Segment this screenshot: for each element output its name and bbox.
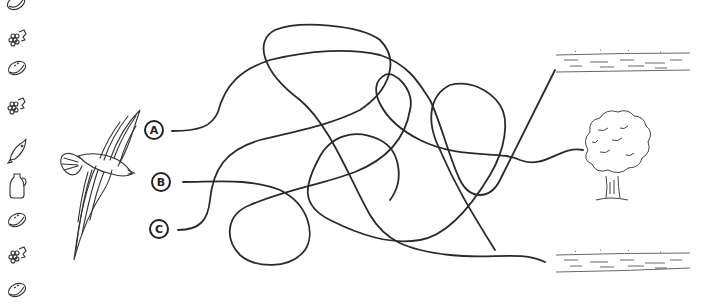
water-bottom-icon: [0, 0, 710, 305]
maze-puzzle: A B C: [0, 0, 710, 305]
